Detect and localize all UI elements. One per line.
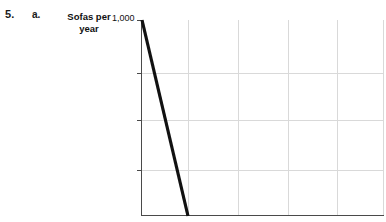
series-line-segment <box>142 20 188 216</box>
exercise-part-label: a. <box>32 9 40 20</box>
production-possibilities-line <box>141 20 384 216</box>
y-axis-title-line-1: Sofas per <box>67 11 110 22</box>
worksheet-figure: 5. a. Sofas per year 1,000 <box>0 0 386 222</box>
exercise-number: 5. <box>5 8 15 20</box>
y-axis-tick-label-1000: 1,000 <box>112 13 135 23</box>
y-axis-title-line-2: year <box>79 23 99 34</box>
chart-plot-area <box>141 20 384 216</box>
